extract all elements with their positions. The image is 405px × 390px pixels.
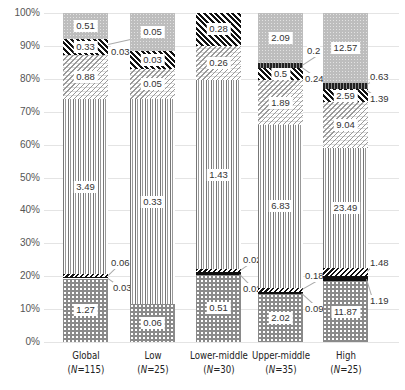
n-value: =35) [275, 363, 297, 375]
n-symbol: N [140, 363, 146, 375]
y-tick-label: 90% [0, 40, 40, 51]
bar-segment-darkvert [323, 83, 368, 89]
segment-value-label: 0.03 [140, 54, 165, 66]
segment-value-label: 0.06 [140, 317, 165, 329]
segment-value-label: 2.09 [268, 32, 293, 44]
segment-value-label: 1.89 [268, 97, 293, 109]
bar-segment-thindiag [196, 269, 241, 272]
bar-segment-black [63, 277, 108, 279]
segment-value-label: 0.5 [271, 68, 290, 80]
y-tick-label: 70% [0, 106, 40, 117]
bar-upper-middle: 2.026.831.890.52.09 [258, 13, 303, 342]
bar-segment-thindiag [63, 274, 108, 277]
segment-value-label: 9.04 [333, 119, 358, 131]
side-value-label: 0.06 [111, 257, 130, 269]
n-prefix: ( [137, 363, 140, 375]
segment-value-label: 2.59 [333, 90, 358, 102]
category-name: High [313, 348, 379, 362]
category-n: (N=25) [313, 362, 379, 376]
category-name: Upper-middle [248, 348, 314, 362]
n-value: =25) [147, 363, 169, 375]
category-n: (N=30) [186, 362, 252, 376]
segment-value-label: 0.05 [140, 26, 165, 38]
stacked-bar-chart: 0%10%20%30%40%50%60%70%80%90%100% 1.273.… [0, 0, 405, 390]
n-value: =25) [340, 363, 362, 375]
x-axis-label-lower-middle: Lower-middle(N=30) [186, 348, 252, 376]
bar-segment-black [196, 272, 241, 275]
y-tick-label: 60% [0, 139, 40, 150]
segment-value-label: 0.88 [73, 71, 98, 83]
segment-value-label: 0.51 [73, 20, 98, 32]
y-tick-label: 80% [0, 73, 40, 84]
y-tick-label: 30% [0, 237, 40, 248]
bar-global: 1.273.490.880.330.51 [63, 13, 108, 342]
leader-line [108, 39, 130, 45]
side-value-label: 0.09 [305, 303, 324, 315]
n-symbol: N [268, 363, 274, 375]
n-prefix: ( [67, 363, 70, 375]
side-value-label: 0.63 [370, 71, 389, 83]
n-symbol: N [70, 363, 76, 375]
bar-segment-darkvert [258, 63, 303, 69]
side-value-label: 1.19 [370, 295, 389, 307]
segment-value-label: 0.33 [73, 41, 98, 53]
segment-value-label: 6.83 [268, 200, 293, 212]
segment-value-label: 0.05 [140, 78, 165, 90]
bar-segment-thindiag [258, 288, 303, 292]
y-tick-label: 20% [0, 270, 40, 281]
n-prefix: ( [330, 363, 333, 375]
x-axis-label-upper-middle: Upper-middle(N=35) [248, 348, 314, 376]
category-name: Low [120, 348, 186, 362]
y-tick-label: 40% [0, 204, 40, 215]
side-value-label: 0.18 [305, 270, 324, 282]
n-value: =30) [213, 363, 235, 375]
category-n: (N=25) [120, 362, 186, 376]
bar-segment-black [323, 276, 368, 282]
x-axis-label-high: High(N=25) [313, 348, 379, 376]
n-prefix: ( [265, 363, 268, 375]
category-n: (N=115) [53, 362, 119, 376]
bar-segment-black [258, 292, 303, 294]
y-tick-label: 0% [0, 336, 40, 347]
segment-value-label: 1.27 [73, 304, 98, 316]
segment-value-label: 12.57 [331, 42, 361, 54]
gridline [44, 342, 399, 343]
side-value-label: 1.39 [370, 93, 389, 105]
segment-value-label: 1.43 [206, 169, 231, 181]
category-n: (N=35) [248, 362, 314, 376]
bar-lower-middle: 0.511.430.260.28 [196, 13, 241, 342]
y-tick-label: 100% [0, 7, 40, 18]
x-axis-label-low: Low(N=25) [120, 348, 186, 376]
n-symbol: N [206, 363, 212, 375]
side-value-label: 0.03 [111, 46, 130, 58]
segment-value-label: 2.02 [268, 312, 293, 324]
y-tick-label: 50% [0, 172, 40, 183]
segment-value-label: 11.87 [331, 306, 360, 318]
bar-low: 0.060.330.050.030.05 [130, 13, 175, 342]
segment-value-label: 3.49 [73, 181, 98, 193]
bar-segment-thindiag [323, 268, 368, 276]
n-value: =115) [77, 363, 104, 375]
category-name: Global [53, 348, 119, 362]
side-value-label: 0.2 [307, 45, 320, 57]
x-axis-label-global: Global(N=115) [53, 348, 119, 376]
segment-value-label: 0.51 [206, 302, 231, 314]
n-prefix: ( [203, 363, 206, 375]
side-value-label: 0.24 [305, 73, 324, 85]
side-value-label: 0.03 [113, 282, 132, 294]
side-value-label: 1.48 [370, 257, 389, 269]
category-name: Lower-middle [186, 348, 252, 362]
segment-value-label: 0.33 [140, 196, 165, 208]
segment-value-label: 0.28 [206, 23, 231, 35]
n-symbol: N [333, 363, 339, 375]
segment-value-label: 0.26 [206, 57, 231, 69]
bar-high: 11.8723.499.042.5912.57 [323, 13, 368, 342]
segment-value-label: 23.49 [331, 202, 361, 214]
y-tick-label: 10% [0, 303, 40, 314]
